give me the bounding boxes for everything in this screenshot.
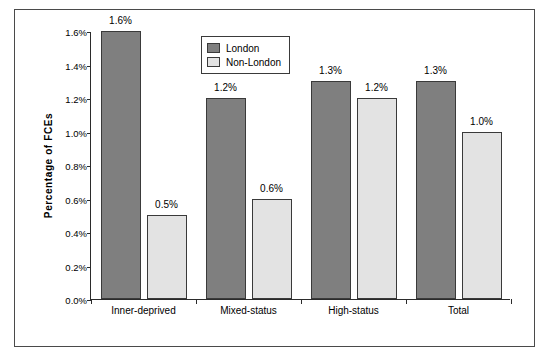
y-tick-label: 0.0%: [47, 295, 87, 306]
y-tick-label: 0.4%: [47, 228, 87, 239]
x-axis-category-label: Total: [448, 305, 469, 316]
legend-swatch-london: [207, 43, 220, 53]
bar: [416, 81, 456, 299]
bar: [357, 98, 397, 299]
legend-swatch-non-london: [207, 57, 220, 67]
y-tick-mark: [87, 267, 91, 268]
y-tick-mark: [87, 99, 91, 100]
y-tick-mark: [87, 166, 91, 167]
bar-value-label: 1.2%: [365, 82, 388, 93]
y-tick-label: 1.2%: [47, 94, 87, 105]
chart-frame: Percentage of FCEs 0.0%0.2%0.4%0.6%0.8%1…: [14, 9, 535, 347]
x-tick-mark: [196, 299, 197, 304]
bar-value-label: 0.5%: [155, 199, 178, 210]
bar-value-label: 0.6%: [260, 183, 283, 194]
bar-value-label: 1.2%: [214, 82, 237, 93]
y-tick-mark: [87, 66, 91, 67]
bar: [206, 98, 246, 299]
y-tick-mark: [87, 200, 91, 201]
bar: [311, 81, 351, 299]
bar: [462, 132, 502, 300]
y-tick-label: 0.2%: [47, 261, 87, 272]
bar-value-label: 1.0%: [470, 116, 493, 127]
y-tick-label: 1.4%: [47, 60, 87, 71]
y-tick-mark: [87, 32, 91, 33]
bar-chart: Percentage of FCEs 0.0%0.2%0.4%0.6%0.8%1…: [0, 0, 549, 356]
bar: [101, 31, 141, 299]
bar-value-label: 1.6%: [109, 15, 132, 26]
legend-label-london: London: [226, 43, 259, 54]
x-tick-mark: [301, 299, 302, 304]
x-axis-category-label: Mixed-status: [220, 305, 277, 316]
y-tick-label: 0.8%: [47, 161, 87, 172]
legend-item-non-london: Non-London: [207, 55, 281, 69]
x-axis-category-label: High-status: [328, 305, 379, 316]
y-tick-label: 1.6%: [47, 27, 87, 38]
y-tick-label: 1.0%: [47, 127, 87, 138]
y-tick-mark: [87, 133, 91, 134]
chart-legend: London Non-London: [201, 36, 290, 74]
x-tick-mark: [511, 299, 512, 304]
bar: [252, 199, 292, 300]
bar-value-label: 1.3%: [424, 65, 447, 76]
legend-label-non-london: Non-London: [226, 57, 281, 68]
plot-area: 0.0%0.2%0.4%0.6%0.8%1.0%1.2%1.4%1.6% 1.6…: [90, 32, 510, 300]
y-tick-mark: [87, 233, 91, 234]
y-tick-label: 0.6%: [47, 194, 87, 205]
bar: [147, 215, 187, 299]
x-axis-category-label: Inner-deprived: [111, 305, 175, 316]
x-tick-mark: [406, 299, 407, 304]
bar-value-label: 1.3%: [319, 65, 342, 76]
legend-item-london: London: [207, 41, 281, 55]
x-tick-mark: [91, 299, 92, 304]
